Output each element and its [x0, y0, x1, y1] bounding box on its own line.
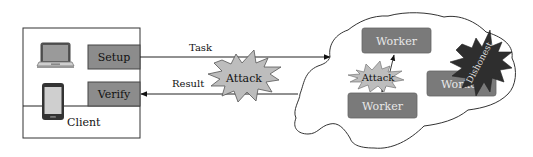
- smartphone-icon: [42, 83, 64, 120]
- verify-label: Verify: [97, 88, 131, 101]
- worker-box-top[interactable]: Worker: [362, 28, 431, 53]
- setup-button[interactable]: Setup: [88, 45, 140, 69]
- internal-attack-label: Attack: [361, 72, 396, 83]
- verify-button[interactable]: Verify: [88, 82, 140, 106]
- task-label: Task: [189, 42, 213, 53]
- worker-label: Worker: [376, 35, 418, 48]
- laptop-icon: [37, 43, 74, 68]
- result-label: Result: [172, 78, 204, 89]
- channel-attack-label: Attack: [225, 72, 262, 85]
- client-label: Client: [67, 116, 101, 129]
- setup-label: Setup: [98, 51, 131, 64]
- worker-label: Worker: [362, 100, 404, 113]
- worker-box-bottom[interactable]: Worker: [348, 93, 417, 118]
- task-arrow: Task: [140, 42, 330, 57]
- diagram-canvas: Setup Verify Client Task Result Attack W…: [0, 0, 533, 157]
